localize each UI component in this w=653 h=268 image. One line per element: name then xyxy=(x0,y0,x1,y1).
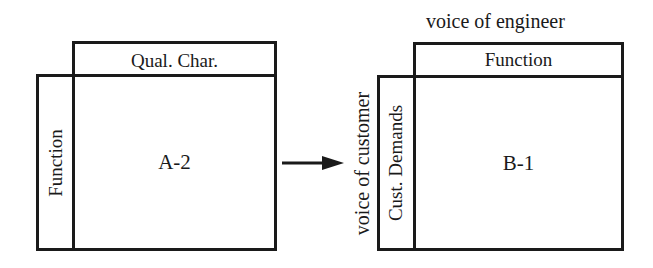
matrix-b-top-header-label: Function xyxy=(485,49,553,71)
matrix-a-left-header: Function xyxy=(36,74,75,251)
matrix-a-top-header-label: Qual. Char. xyxy=(131,50,218,72)
matrix-a-top-header: Qual. Char. xyxy=(72,41,277,77)
matrix-b-body: B-1 xyxy=(413,75,624,251)
matrix-a-body: A-2 xyxy=(72,74,277,251)
matrix-b-left-header: Cust. Demands xyxy=(377,75,416,251)
matrix-a-cell-label: A-2 xyxy=(158,150,191,175)
matrix-b-top-header: Function xyxy=(413,42,624,78)
matrix-b-cell-label: B-1 xyxy=(503,151,535,176)
matrix-b-top-caption: voice of engineer xyxy=(426,10,565,33)
matrix-b-left-caption: voice of customer xyxy=(350,75,376,251)
matrix-b-left-header-label: Cust. Demands xyxy=(386,105,408,221)
matrix-a-left-header-label: Function xyxy=(45,129,67,197)
arrow-right-icon xyxy=(282,155,344,171)
matrix-b-left-caption-label: voice of customer xyxy=(352,91,375,234)
